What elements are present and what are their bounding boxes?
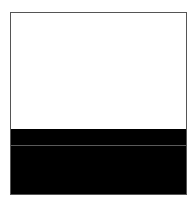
black-region bbox=[11, 129, 186, 194]
square-panel bbox=[10, 12, 187, 195]
gray-divider-line bbox=[11, 145, 186, 146]
white-region bbox=[11, 13, 186, 129]
